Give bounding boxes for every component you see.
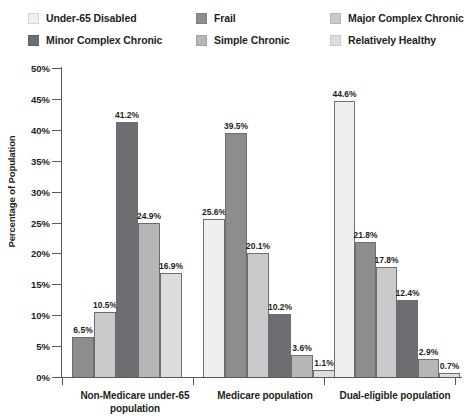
x-axis-group-label-line: Dual-eligible population bbox=[320, 390, 469, 403]
y-axis-tick bbox=[52, 315, 61, 316]
x-axis-group-label: Dual-eligible population bbox=[320, 390, 469, 403]
bar bbox=[203, 219, 225, 377]
bar-value-label: 25.6% bbox=[202, 208, 226, 217]
x-axis-tick bbox=[62, 378, 63, 385]
legend-swatch bbox=[196, 13, 207, 24]
legend-item: Frail bbox=[196, 13, 236, 24]
y-axis-tick-label: 45% bbox=[2, 95, 50, 105]
y-axis-tick bbox=[52, 130, 61, 131]
legend-label: Major Complex Chronic bbox=[348, 13, 464, 24]
y-axis-tick-label: 5% bbox=[2, 342, 50, 352]
bar-value-label: 44.6% bbox=[332, 90, 356, 99]
legend-swatch bbox=[196, 35, 207, 46]
legend-item: Simple Chronic bbox=[196, 35, 290, 46]
legend-item: Under-65 Disabled bbox=[28, 13, 137, 24]
bar bbox=[160, 273, 182, 377]
bar-value-label: 6.5% bbox=[73, 326, 92, 335]
y-axis-tick bbox=[52, 346, 61, 347]
bar bbox=[116, 122, 138, 377]
x-axis-group-label: Medicare population bbox=[190, 390, 340, 403]
y-axis-tick-label: 50% bbox=[2, 64, 50, 74]
bar-value-label: 3.6% bbox=[292, 344, 311, 353]
x-axis-tick bbox=[455, 378, 456, 385]
bar-value-label: 10.5% bbox=[93, 301, 117, 310]
legend-swatch bbox=[28, 35, 39, 46]
bar-value-label: 17.8% bbox=[374, 256, 398, 265]
x-axis-group-label-line: Medicare population bbox=[190, 390, 340, 403]
x-axis-tick bbox=[193, 378, 194, 385]
bar-value-label: 39.5% bbox=[224, 122, 248, 131]
bar-value-label: 10.2% bbox=[268, 303, 292, 312]
bar bbox=[225, 133, 247, 377]
y-axis-tick-label: 10% bbox=[2, 311, 50, 321]
legend-label: Frail bbox=[214, 13, 236, 24]
bar-value-label: 1.1% bbox=[314, 359, 333, 368]
bar-value-label: 21.8% bbox=[353, 231, 377, 240]
y-axis-tick-label: 30% bbox=[2, 188, 50, 198]
bar-value-label: 2.9% bbox=[419, 348, 438, 357]
bar-value-label: 41.2% bbox=[115, 111, 139, 120]
bar bbox=[418, 359, 439, 377]
y-axis-tick-label: 20% bbox=[2, 249, 50, 259]
legend-swatch bbox=[330, 13, 341, 24]
bar-value-label: 12.4% bbox=[395, 289, 419, 298]
bar-value-label: 16.9% bbox=[159, 262, 183, 271]
y-axis-tick bbox=[52, 161, 61, 162]
y-axis-tick-label: 40% bbox=[2, 126, 50, 136]
bar-value-label: 0.7% bbox=[440, 362, 459, 371]
bar bbox=[247, 253, 269, 377]
y-axis-tick-label: 25% bbox=[2, 219, 50, 229]
legend-label: Relatively Healthy bbox=[348, 35, 436, 46]
plot-area: 6.5%10.5%41.2%24.9%16.9%25.6%39.5%20.1%1… bbox=[62, 68, 462, 377]
bar bbox=[397, 300, 418, 377]
bar bbox=[334, 101, 355, 377]
bar bbox=[72, 337, 94, 377]
y-axis-tick bbox=[52, 284, 61, 285]
legend-swatch bbox=[28, 13, 39, 24]
y-axis-tick bbox=[52, 253, 61, 254]
bar bbox=[313, 370, 335, 377]
legend-label: Minor Complex Chronic bbox=[46, 35, 162, 46]
y-axis-tick-label: 35% bbox=[2, 157, 50, 167]
x-axis-tick bbox=[324, 378, 325, 385]
y-axis-tick bbox=[52, 192, 61, 193]
y-axis-tick bbox=[52, 99, 61, 100]
bar bbox=[138, 223, 160, 377]
y-axis-tick bbox=[52, 377, 61, 378]
bar-value-label: 20.1% bbox=[246, 242, 270, 251]
bar-chart: Percentage of Population 0%5%10%15%20%25… bbox=[0, 56, 469, 418]
bar bbox=[355, 242, 376, 377]
legend-swatch bbox=[330, 35, 341, 46]
x-axis-group-label-line: population bbox=[55, 403, 215, 416]
legend-label: Simple Chronic bbox=[214, 35, 290, 46]
legend-item: Minor Complex Chronic bbox=[28, 35, 162, 46]
y-axis-tick bbox=[52, 223, 61, 224]
y-axis-tick-label: 0% bbox=[2, 373, 50, 383]
legend-label: Under-65 Disabled bbox=[46, 13, 137, 24]
bar bbox=[376, 267, 397, 377]
y-axis-tick-label: 15% bbox=[2, 280, 50, 290]
bar bbox=[291, 355, 313, 377]
bar bbox=[439, 373, 460, 377]
bar bbox=[269, 314, 291, 377]
legend-item: Major Complex Chronic bbox=[330, 13, 464, 24]
chart-legend: Under-65 DisabledMinor Complex ChronicFr… bbox=[0, 0, 469, 56]
y-axis-tick bbox=[52, 68, 61, 69]
legend-item: Relatively Healthy bbox=[330, 35, 436, 46]
bar bbox=[94, 312, 116, 377]
x-axis-line bbox=[61, 377, 462, 378]
bar-value-label: 24.9% bbox=[137, 212, 161, 221]
